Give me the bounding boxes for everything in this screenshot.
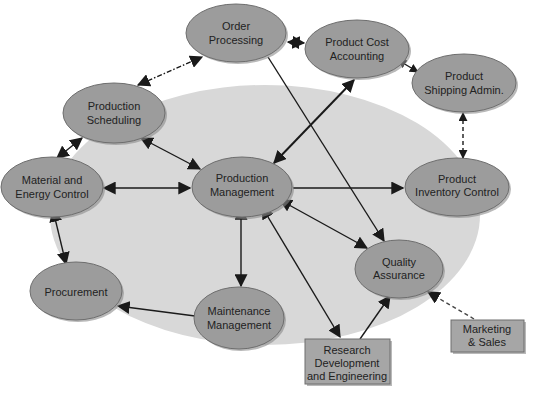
svg-text:Production: Production bbox=[216, 172, 269, 184]
node-label: Energy Control bbox=[15, 188, 88, 200]
node-procurement[interactable]: Procurement bbox=[30, 262, 124, 322]
svg-text:Maintenance: Maintenance bbox=[208, 305, 271, 317]
svg-text:Product: Product bbox=[438, 173, 476, 185]
node-label: Order bbox=[222, 20, 250, 32]
node-maintenance-management[interactable]: Maintenance Management bbox=[194, 287, 286, 351]
edge-production-scheduling-order-processing bbox=[138, 57, 202, 85]
node-label: Material and bbox=[22, 174, 83, 186]
svg-text:Procurement: Procurement bbox=[45, 286, 108, 298]
svg-text:Assurance: Assurance bbox=[373, 269, 425, 281]
svg-text:Accounting: Accounting bbox=[330, 50, 384, 62]
svg-text:and Engineering: and Engineering bbox=[307, 370, 387, 382]
svg-text:Research: Research bbox=[323, 344, 370, 356]
node-label: Scheduling bbox=[87, 114, 141, 126]
svg-text:& Sales: & Sales bbox=[468, 336, 506, 348]
node-product-shipping-admin[interactable]: Product Shipping Admin. bbox=[412, 54, 518, 114]
svg-text:Quality: Quality bbox=[382, 256, 417, 268]
node-marketing-sales[interactable]: Marketing & Sales bbox=[451, 320, 526, 354]
node-label: Procurement bbox=[45, 286, 108, 298]
svg-text:Management: Management bbox=[210, 186, 274, 198]
edge-order-processing-product-cost-accounting bbox=[288, 42, 304, 43]
manufacturing-functions-diagram: Order Processing Product Cost Accounting… bbox=[0, 0, 540, 397]
node-label: Inventory Control bbox=[415, 186, 499, 198]
node-label: Management bbox=[210, 186, 274, 198]
node-label: and Engineering bbox=[307, 370, 387, 382]
node-material-energy-control[interactable]: Material and Energy Control bbox=[1, 157, 105, 219]
svg-text:Processing: Processing bbox=[209, 34, 263, 46]
node-label: Research bbox=[323, 344, 370, 356]
edge-marketing-sales-quality-assurance bbox=[428, 292, 474, 319]
svg-text:Scheduling: Scheduling bbox=[87, 114, 141, 126]
node-label: Product Cost bbox=[325, 36, 389, 48]
node-label: Product bbox=[445, 70, 483, 82]
svg-text:Development: Development bbox=[315, 357, 380, 369]
node-label: Maintenance bbox=[208, 305, 271, 317]
node-label: Quality bbox=[382, 256, 417, 268]
svg-text:Production: Production bbox=[88, 100, 141, 112]
node-production-scheduling[interactable]: Production Scheduling bbox=[63, 83, 167, 145]
node-label: Development bbox=[315, 357, 380, 369]
node-label: Production bbox=[88, 100, 141, 112]
node-label: Assurance bbox=[373, 269, 425, 281]
node-label: & Sales bbox=[468, 336, 506, 348]
svg-text:Shipping Admin.: Shipping Admin. bbox=[424, 84, 504, 96]
svg-text:Inventory Control: Inventory Control bbox=[415, 186, 499, 198]
svg-text:Management: Management bbox=[207, 319, 271, 331]
node-research-development-engineering[interactable]: Research Development and Engineering bbox=[305, 339, 392, 386]
node-label: Management bbox=[207, 319, 271, 331]
node-label: Processing bbox=[209, 34, 263, 46]
svg-text:Order: Order bbox=[222, 20, 250, 32]
svg-text:Marketing: Marketing bbox=[463, 323, 511, 335]
svg-text:Product Cost: Product Cost bbox=[325, 36, 389, 48]
svg-text:Product: Product bbox=[445, 70, 483, 82]
node-order-processing[interactable]: Order Processing bbox=[186, 4, 288, 64]
svg-text:Energy Control: Energy Control bbox=[15, 188, 88, 200]
node-label: Accounting bbox=[330, 50, 384, 62]
svg-text:Material and: Material and bbox=[22, 174, 83, 186]
node-label: Shipping Admin. bbox=[424, 84, 504, 96]
node-product-cost-accounting[interactable]: Product Cost Accounting bbox=[305, 20, 411, 80]
nodes-layer: Order Processing Product Cost Accounting… bbox=[1, 4, 526, 386]
node-label: Production bbox=[216, 172, 269, 184]
node-label: Product bbox=[438, 173, 476, 185]
node-label: Marketing bbox=[463, 323, 511, 335]
